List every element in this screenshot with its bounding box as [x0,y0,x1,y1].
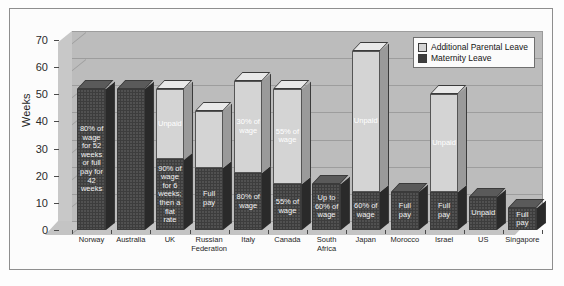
bar-face-side [145,82,154,230]
y-tick-label-40: 40 [36,116,48,126]
bar-segment-parental[interactable] [195,111,223,168]
bar-face-side [458,87,467,192]
bar-face-side [223,103,232,167]
y-tick-mark-0 [54,230,59,231]
bar-face-side [341,177,350,230]
y-tick-label-70: 70 [36,35,48,45]
bar-segment-maternity[interactable]: 80% of wage for 52 weeks or full pay for… [77,89,105,230]
bar-face-front: 30% of wage [234,81,262,173]
y-tick-label-60: 60 [36,62,48,72]
y-tick-label-30: 30 [36,144,48,154]
bar-segment-label: 90% of wage for 6 weeks; then a flat rat… [157,165,183,225]
bar-face-side [262,166,271,230]
bar-face-front: Unpaid [430,94,458,192]
y-tick-mark-60 [54,67,59,68]
y-tick-mark-30 [54,149,59,150]
bar-face-front: Full pay [508,208,536,230]
bar-segment-label: 80% of wage for 52 weeks or full pay for… [78,125,104,194]
bar-segment-label: Full pay [431,202,457,219]
x-axis-label: Singapore [503,235,542,244]
x-axis-label: Russian Federation [190,235,229,253]
bar-segment-maternity[interactable]: Up to 60% of wage [312,184,340,230]
bar-group[interactable] [117,31,145,230]
bar-group[interactable]: Full pay [195,31,223,230]
bar-segment-parental[interactable]: Unpaid [156,89,184,160]
y-axis-title: Weeks [20,94,32,127]
legend-swatch-icon [418,54,427,63]
y-tick-mark-50 [54,94,59,95]
bar-segment-label: Unpaid [353,117,379,126]
bar-group[interactable]: Up to 60% of wage [312,31,340,230]
bar-segment-maternity[interactable]: 90% of wage for 6 weeks; then a flat rat… [156,159,184,230]
bar-face-front: Unpaid [469,197,497,230]
chart-legend: Additional Parental LeaveMaternity Leave [413,37,535,68]
bar-face-front: 55% of wage [273,89,301,184]
bar-segment-maternity[interactable]: Full pay [391,192,419,230]
legend-item[interactable]: Additional Parental Leave [418,42,528,52]
bar-segment-maternity[interactable]: Full pay [430,192,458,230]
bar-segment-label: Unpaid [470,209,496,218]
bar-segment-maternity[interactable]: Unpaid [469,197,497,230]
bar-segment-parental[interactable]: Unpaid [352,51,380,192]
x-tick-mark [503,230,504,234]
bar-face-front: 80% of wage for 52 weeks or full pay for… [77,89,105,230]
x-tick-mark [425,230,426,234]
bar-group[interactable]: 55% of wage55% of wage [273,31,301,230]
x-tick-mark [111,230,112,234]
bar-segment-label: 55% of wage [274,128,300,145]
bar-group[interactable]: 90% of wage for 6 weeks; then a flat rat… [156,31,184,230]
y-tick-mark-40 [54,121,59,122]
bar-face-front: Full pay [430,192,458,230]
x-tick-mark [464,230,465,234]
bar-segment-maternity[interactable]: Full pay [195,168,223,230]
x-axis-label: UK [150,235,189,244]
bar-face-side [302,177,311,230]
bar-face-front: Full pay [391,192,419,230]
x-axis-label: Australia [111,235,150,244]
legend-item[interactable]: Maternity Leave [418,53,528,63]
x-tick-mark [542,230,543,234]
bar-segment-label: 80% of wage [235,193,261,210]
bar-segment-maternity[interactable]: 60% of wage [352,192,380,230]
bar-face-side [458,185,467,230]
bar-face-front: Unpaid [352,51,380,192]
bar-face-front: 60% of wage [352,192,380,230]
bar-segment-parental[interactable]: Unpaid [430,94,458,192]
bar-segment-label: Unpaid [431,139,457,148]
chart-figure: Weeks 80% of wage for 52 weeks or full p… [0,0,564,286]
bar-face-side [262,73,271,173]
bar-segment-label: Unpaid [157,120,183,129]
bar-segment-label: Up to 60% of wage [313,194,339,220]
x-tick-mark [190,230,191,234]
bar-face-front [195,111,223,168]
bar-segment-parental[interactable]: 30% of wage [234,81,262,173]
bar-segment-maternity[interactable]: 55% of wage [273,184,301,230]
bar-group[interactable]: 60% of wageUnpaid [352,31,380,230]
bar-segment-maternity[interactable]: Full pay [508,208,536,230]
x-axis-label: South Africa [307,235,346,253]
bar-segment-label: Full pay [196,190,222,207]
y-tick-mark-70 [54,40,59,41]
x-tick-mark [229,230,230,234]
bar-face-side [380,44,389,192]
chart-border-frame: Weeks 80% of wage for 52 weeks or full p… [9,8,553,270]
x-tick-mark [307,230,308,234]
y-tick-label-50: 50 [36,89,48,99]
x-axis-label: Italy [229,235,268,244]
legend-label: Additional Parental Leave [431,42,528,52]
x-axis-label: Japan [346,235,385,244]
y-tick-mark-20 [54,176,59,177]
bar-group[interactable]: 80% of wage for 52 weeks or full pay for… [77,31,105,230]
x-axis-label: Israel [425,235,464,244]
bar-segment-maternity[interactable]: 80% of wage [234,173,262,230]
bar-segment-maternity[interactable] [117,89,145,230]
bar-face-front: Full pay [195,168,223,230]
bar-face-side [223,160,232,230]
bar-segment-parental[interactable]: 55% of wage [273,89,301,184]
bar-face-side [419,185,428,230]
bar-group[interactable]: 80% of wage30% of wage [234,31,262,230]
x-tick-mark [346,230,347,234]
x-tick-mark [385,230,386,234]
bar-face-front: Unpaid [156,89,184,160]
legend-swatch-icon [418,43,427,52]
